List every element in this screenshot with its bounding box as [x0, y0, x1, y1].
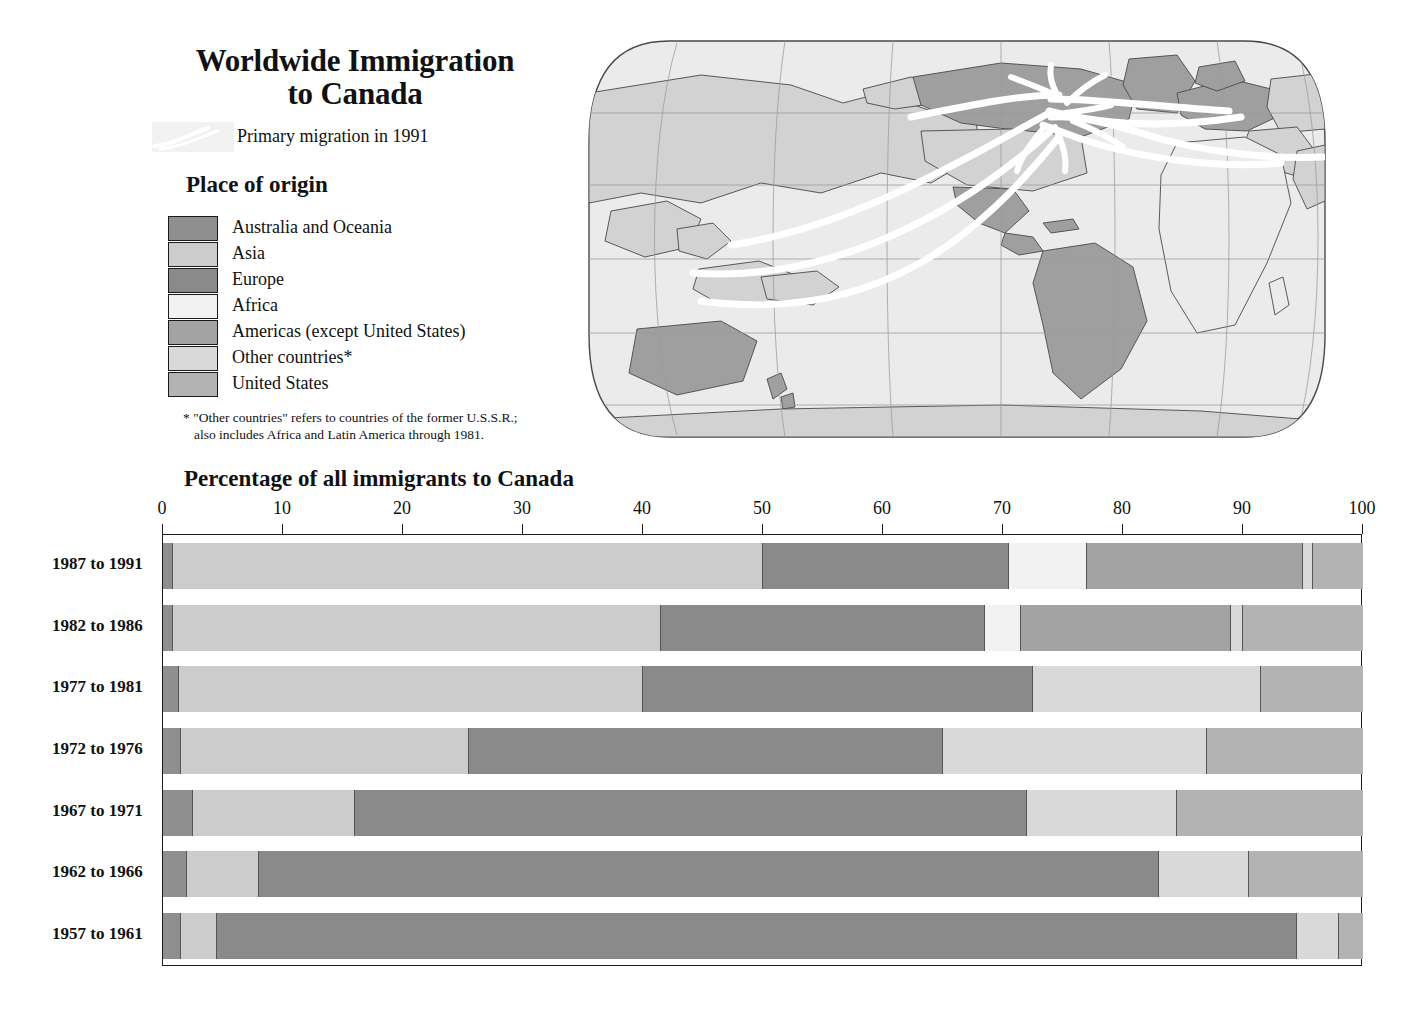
footnote-line-1: * "Other countries" refers to countries …	[183, 410, 518, 425]
category-label: 1987 to 1991	[52, 554, 143, 574]
bar-segment	[1027, 790, 1177, 836]
legend-item: Africa	[168, 294, 568, 320]
bar-segment	[217, 913, 1297, 959]
x-tick-label: 60	[873, 498, 891, 519]
bar-segment	[193, 790, 355, 836]
bar-segment	[1303, 543, 1313, 589]
chart-plot-area	[162, 534, 1362, 966]
legend-item-label: Americas (except United States)	[232, 321, 465, 342]
main-title-line-1: Worldwide Immigration	[155, 44, 555, 77]
chart-title: Percentage of all immigrants to Canada	[184, 466, 574, 492]
category-label: 1972 to 1976	[52, 739, 143, 759]
bar-row	[163, 728, 1361, 774]
x-tick-mark	[642, 524, 643, 534]
legend-swatch	[168, 294, 218, 319]
x-tick-label: 30	[513, 498, 531, 519]
bar-segment	[1159, 851, 1249, 897]
category-label: 1967 to 1971	[52, 801, 143, 821]
x-tick-mark	[1362, 524, 1363, 534]
bar-segment	[163, 605, 173, 651]
flow-legend: Primary migration in 1991	[152, 122, 522, 154]
category-label: 1982 to 1986	[52, 616, 143, 636]
legend-item-label: Asia	[232, 243, 265, 264]
legend-swatch	[168, 216, 218, 241]
stacked-bar-chart: 0102030405060708090100 1987 to 19911982 …	[0, 498, 1416, 978]
page-title: Worldwide Immigration to Canada	[155, 44, 555, 111]
main-title-line-2: to Canada	[155, 77, 555, 110]
legend-item-label: Europe	[232, 269, 284, 290]
x-tick-mark	[162, 524, 163, 534]
bar-segment	[179, 666, 643, 712]
bar-segment	[173, 543, 763, 589]
bar-segment	[187, 851, 259, 897]
bar-segment	[1033, 666, 1261, 712]
bar-row	[163, 913, 1361, 959]
bar-segment	[763, 543, 1009, 589]
x-tick-mark	[522, 524, 523, 534]
infographic-page: Worldwide Immigration to Canada Primary …	[0, 0, 1416, 1023]
bar-segment	[1339, 913, 1363, 959]
legend-item-label: Other countries*	[232, 347, 352, 368]
legend-item: Americas (except United States)	[168, 320, 568, 346]
legend-swatch	[168, 268, 218, 293]
flow-legend-label: Primary migration in 1991	[237, 126, 428, 147]
bar-segment	[259, 851, 1159, 897]
bar-segment	[163, 790, 193, 836]
x-tick-label: 0	[158, 498, 167, 519]
bar-row	[163, 790, 1361, 836]
bar-segment	[469, 728, 943, 774]
bar-segment	[163, 728, 181, 774]
legend-item: Asia	[168, 242, 568, 268]
origin-legend-heading: Place of origin	[186, 172, 328, 198]
bar-segment	[1207, 728, 1363, 774]
x-tick-label: 80	[1113, 498, 1131, 519]
bar-row	[163, 666, 1361, 712]
x-tick-label: 40	[633, 498, 651, 519]
bar-segment	[355, 790, 1027, 836]
bar-segment	[1021, 605, 1231, 651]
x-tick-label: 90	[1233, 498, 1251, 519]
legend-item: United States	[168, 372, 568, 398]
x-tick-label: 20	[393, 498, 411, 519]
legend-item: Other countries*	[168, 346, 568, 372]
bar-segment	[661, 605, 985, 651]
x-tick-mark	[402, 524, 403, 534]
x-tick-label: 70	[993, 498, 1011, 519]
x-tick-mark	[882, 524, 883, 534]
bar-segment	[181, 913, 217, 959]
bar-segment	[181, 728, 469, 774]
bar-segment	[643, 666, 1033, 712]
legend-swatch	[168, 242, 218, 267]
origin-legend-list: Australia and OceaniaAsiaEuropeAfricaAme…	[168, 216, 568, 398]
x-tick-mark	[1122, 524, 1123, 534]
bar-segment	[173, 605, 661, 651]
category-label: 1977 to 1981	[52, 677, 143, 697]
bar-segment	[1243, 605, 1363, 651]
bar-row	[163, 851, 1361, 897]
chart-x-axis: 0102030405060708090100	[162, 498, 1362, 534]
x-tick-mark	[762, 524, 763, 534]
legend-item: Australia and Oceania	[168, 216, 568, 242]
x-tick-mark	[1242, 524, 1243, 534]
x-tick-label: 50	[753, 498, 771, 519]
bar-segment	[1009, 543, 1087, 589]
legend-item: Europe	[168, 268, 568, 294]
x-tick-mark	[282, 524, 283, 534]
main-title: Worldwide Immigration to Canada	[155, 44, 555, 111]
bar-segment	[985, 605, 1021, 651]
x-tick-label: 100	[1349, 498, 1376, 519]
bar-row	[163, 543, 1361, 589]
migration-flow-swatch	[152, 122, 234, 152]
bar-segment	[1231, 605, 1243, 651]
bar-segment	[1297, 913, 1339, 959]
bar-segment	[943, 728, 1207, 774]
legend-item-label: United States	[232, 373, 329, 394]
bar-segment	[1249, 851, 1363, 897]
bar-segment	[163, 666, 179, 712]
bar-segment	[1261, 666, 1363, 712]
bar-segment	[163, 913, 181, 959]
bar-segment	[163, 851, 187, 897]
x-tick-label: 10	[273, 498, 291, 519]
legend-swatch	[168, 320, 218, 345]
bar-segment	[1177, 790, 1363, 836]
